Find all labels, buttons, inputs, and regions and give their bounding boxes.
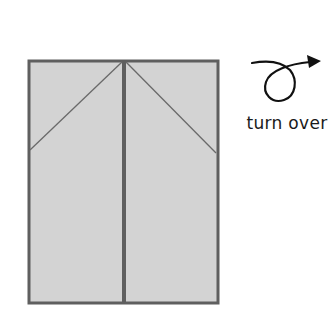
origami-diagram: [0, 0, 336, 324]
turn-over-label: turn over: [238, 113, 336, 133]
turn-over-icon: [252, 55, 321, 101]
